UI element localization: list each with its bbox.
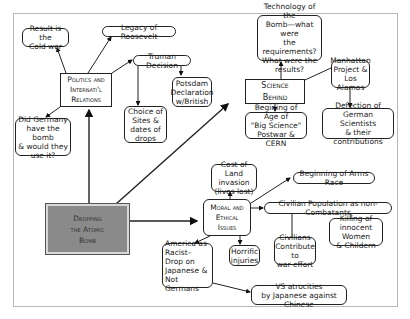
node-sites: Choice of Sites & dates of drops [124, 106, 167, 143]
node-science: Science Behind [245, 79, 305, 104]
node-racist: America as Racist– Drop on Japanese & No… [162, 243, 213, 288]
node-germany: Did Germany have the bomb & would they u… [15, 118, 71, 156]
node-truman: Truman Decision [133, 55, 191, 66]
node-manhattan: Manhattan Project & Los Alamos [331, 60, 370, 88]
node-technology: Technology of the Bomb—what were the req… [257, 15, 322, 61]
node-defection: Defection of German Scientists & their c… [322, 108, 394, 139]
node-civilian: Civilian Population as non-Combatants [264, 202, 392, 214]
node-potsdam: Potsdam Declaration w/British [172, 77, 212, 107]
node-land-invasion: Cost of Land invasion (lives lost) [211, 164, 257, 192]
node-big-science: Begining of Age of "Big Science" Postwar… [245, 112, 307, 139]
node-moral: Moral and Ethical Issues [203, 199, 251, 236]
node-civilians-contribute: Civilians Contribute to war effort [274, 237, 316, 265]
node-politics: Politics and Internati'l Relations [60, 73, 112, 107]
node-arms-race: Beginning of Arms Race [293, 172, 375, 184]
node-atrocities: VS atrocities by Japanese against Chines… [251, 285, 347, 305]
node-killing: Killing of innocent Women & Childern [329, 218, 383, 246]
node-roosevelt: Legacy of Roosevelt [102, 26, 176, 37]
node-main-topic: Dropping the Atomic Bomb [45, 203, 130, 255]
node-cold-war: Result is the Cold war [22, 28, 69, 47]
node-horrific: Horrific injuries [229, 245, 260, 266]
